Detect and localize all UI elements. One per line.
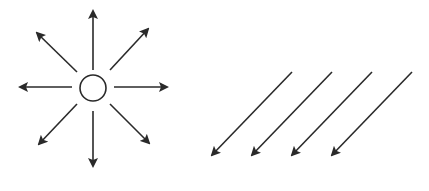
arrow-down-right-icon (110, 104, 149, 143)
parallel-arrow-1-icon (212, 72, 292, 155)
parallel-arrow-3-icon (292, 72, 372, 155)
parallel-arrows-uniform-field (212, 72, 412, 155)
arrow-up-right-icon (110, 29, 148, 70)
field-diagram (0, 0, 429, 191)
arrow-down-left-icon (39, 104, 77, 144)
arrow-up-left-icon (37, 33, 77, 72)
radial-arrows-point-source (20, 11, 167, 166)
parallel-arrow-4-icon (332, 72, 412, 155)
diagram-canvas (0, 0, 429, 191)
source-circle-icon (80, 75, 106, 101)
parallel-arrow-2-icon (252, 72, 332, 155)
